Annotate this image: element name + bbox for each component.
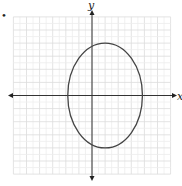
bullet-marker: • bbox=[1, 10, 7, 21]
x-axis-label: x bbox=[177, 90, 182, 103]
x-axis-left-arrow-icon bbox=[8, 93, 13, 98]
x-axis: x bbox=[8, 90, 182, 103]
y-axis-bottom-arrow-icon bbox=[90, 176, 95, 181]
y-axis-label: y bbox=[87, 0, 95, 12]
ellipse-graph: • x y bbox=[0, 0, 182, 186]
y-axis: y bbox=[87, 0, 95, 181]
